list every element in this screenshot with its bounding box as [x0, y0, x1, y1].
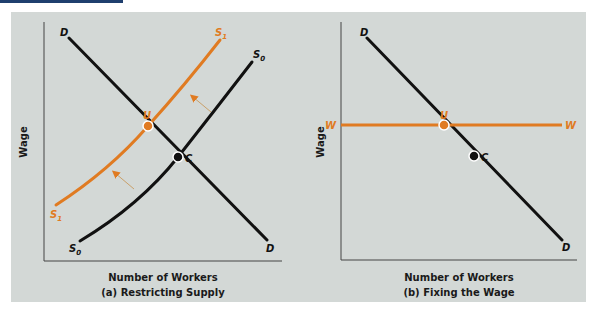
label-d-bottom-b: D: [562, 242, 570, 253]
y-axis-label-a: Wage: [18, 126, 29, 158]
label-s0-top: S0: [253, 49, 265, 63]
shift-arrow-lower: [115, 173, 134, 189]
label-s1-top: S1: [215, 27, 227, 41]
x-axis-label-a: Number of Workers: [108, 272, 218, 283]
label-s1-bottom: S1: [50, 209, 62, 223]
label-d-top-b: D: [360, 27, 368, 38]
point-c-b: [469, 151, 479, 161]
chart-a: D D S1 S0 S1 S0 U C Wage Number of Worke…: [18, 22, 282, 298]
chart-b: D D W W U C Wage Number of Workers (b) F…: [315, 22, 577, 298]
point-u-b: [439, 120, 449, 130]
shift-arrow-upper: [193, 97, 211, 112]
supply-curve-s0: [80, 62, 252, 241]
demand-curve-a: [69, 38, 267, 240]
label-d-top-a: D: [60, 27, 68, 38]
label-u-a: U: [143, 110, 151, 121]
charts: D D S1 S0 S1 S0 U C Wage Number of Worke…: [0, 0, 600, 312]
supply-curve-s1: [56, 40, 220, 205]
label-d-bottom-a: D: [266, 243, 274, 254]
x-axis-label-b: Number of Workers: [404, 272, 514, 283]
label-c-b: C: [481, 152, 489, 163]
label-w-right: W: [565, 120, 577, 131]
panel-title-b: (b) Fixing the Wage: [403, 287, 514, 298]
y-axis-label-b: Wage: [315, 126, 326, 158]
point-u-a: [143, 121, 153, 131]
label-s0-bottom: S0: [69, 243, 81, 257]
label-w-left: W: [325, 120, 337, 131]
label-u-b: U: [440, 110, 448, 121]
panel-title-a: (a) Restricting Supply: [101, 287, 225, 298]
demand-curve-b: [367, 38, 562, 240]
label-c-a: C: [185, 153, 193, 164]
point-c-a: [173, 152, 183, 162]
